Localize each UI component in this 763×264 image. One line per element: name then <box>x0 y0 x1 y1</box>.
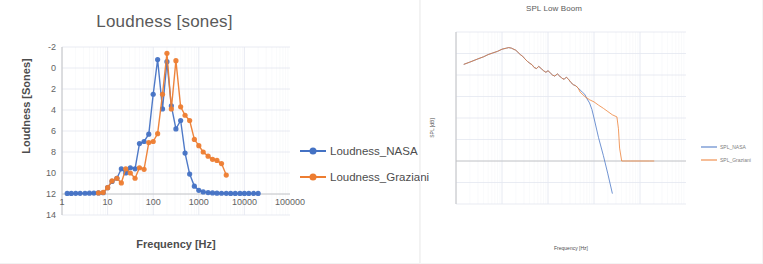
loudness-xaxis-title: Frequency [Hz] <box>62 238 290 250</box>
spl-xaxis-title: Frequency [Hz] <box>456 245 686 251</box>
legend-key-spl-graziani-icon <box>701 157 717 163</box>
xtick-label: 10 <box>84 197 132 207</box>
legend-key-spl-nasa-icon <box>701 144 717 150</box>
xtick-label: 100 <box>129 197 177 207</box>
loudness-plot-area <box>62 47 290 215</box>
loudness-yaxis-title: Loudness [Sones] <box>20 36 32 176</box>
spl-chart-title: SPL Low Boom <box>421 4 687 13</box>
spl-chart: SPL Low Boom 120100806040200-20-40110100… <box>420 0 763 264</box>
loudness-series-layer <box>62 47 290 215</box>
loudness-chart: Loudness [sones] 14121086420-21101001000… <box>0 0 420 264</box>
spl-plot-area <box>456 32 686 204</box>
legend-item-spl-graziani[interactable]: SPL_Graziani <box>701 153 751 166</box>
legend-key-nasa-icon <box>300 146 326 156</box>
legend-item-loudness-graziani[interactable]: Loudness_Graziani <box>300 164 429 190</box>
ytick-label: 14 <box>26 210 56 220</box>
legend-label-spl-graziani: SPL_Graziani <box>720 157 751 163</box>
spl-yaxis-title: SPL [dB] <box>429 93 435 163</box>
legend-label-loudness-graziani: Loudness_Graziani <box>330 171 429 183</box>
loudness-legend: Loudness_NASA Loudness_Graziani <box>300 138 429 190</box>
legend-item-spl-nasa[interactable]: SPL_NASA <box>701 140 751 153</box>
legend-item-loudness-nasa[interactable]: Loudness_NASA <box>300 138 429 164</box>
xtick-label: 1 <box>38 197 86 207</box>
charts-page: Loudness [sones] 14121086420-21101001000… <box>0 0 763 264</box>
loudness-chart-title: Loudness [sones] <box>0 12 329 32</box>
xtick-label: 10000 <box>220 197 268 207</box>
legend-key-graziani-icon <box>300 172 326 182</box>
spl-legend: SPL_NASA SPL_Graziani <box>701 140 751 166</box>
spl-series-layer <box>456 32 686 204</box>
xtick-label: 1000 <box>175 197 223 207</box>
xtick-label: 100000 <box>266 197 314 207</box>
legend-label-spl-nasa: SPL_NASA <box>720 144 746 150</box>
legend-label-loudness-nasa: Loudness_NASA <box>330 145 418 157</box>
